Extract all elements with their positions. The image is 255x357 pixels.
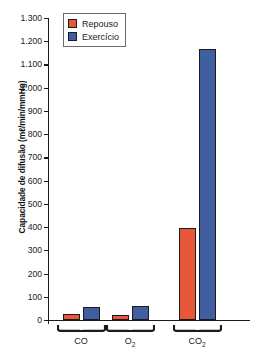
y-tick-mark	[44, 250, 48, 251]
y-tick-mark	[44, 88, 48, 89]
group-brace	[173, 325, 222, 332]
bar-chart-figure: Capacidade de difusão (mℓ/min/mmHg) 0100…	[0, 0, 255, 357]
y-tick-label: 1.200	[20, 37, 42, 46]
y-tick-label: 1.300	[20, 14, 42, 23]
y-tick-mark	[44, 64, 48, 65]
legend-swatch	[68, 19, 77, 28]
y-tick-label: 200	[28, 269, 42, 278]
y-tick-label: 900	[28, 107, 42, 116]
y-tick-label: 1.100	[20, 60, 42, 69]
y-axis-line	[48, 18, 49, 324]
y-tick-label: 700	[28, 153, 42, 162]
group-brace	[57, 325, 106, 332]
group-brace	[106, 325, 155, 332]
y-tick-mark	[44, 134, 48, 135]
x-axis-group-label-o2: O2	[100, 336, 160, 348]
y-tick-mark	[44, 111, 48, 112]
y-tick-label: 1.000	[20, 83, 42, 92]
x-axis-line	[48, 320, 250, 321]
chart-legend: RepousoExercício	[63, 13, 126, 47]
y-tick-label: 800	[28, 130, 42, 139]
y-tick-mark	[44, 18, 48, 19]
y-tick-label: 100	[28, 292, 42, 301]
plot-area: 01002003004005006007008009001.0001.1001.…	[48, 14, 250, 324]
y-tick-label: 600	[28, 176, 42, 185]
legend-label: Exercício	[82, 32, 119, 42]
legend-label: Repouso	[82, 19, 118, 29]
bar-co-repouso	[63, 314, 80, 320]
bar-o2-exerccio	[132, 306, 149, 320]
bar-co-exerccio	[83, 307, 100, 320]
y-tick-mark	[44, 181, 48, 182]
y-tick-mark	[44, 274, 48, 275]
y-tick-label: 500	[28, 200, 42, 209]
y-tick-mark	[44, 320, 48, 321]
y-axis-label: Capacidade de difusão (mℓ/min/mmHg)	[17, 42, 27, 272]
y-tick-label: 400	[28, 223, 42, 232]
legend-swatch	[68, 32, 77, 41]
legend-item-exerccio: Exercício	[68, 30, 119, 43]
y-tick-mark	[44, 204, 48, 205]
y-tick-mark	[44, 297, 48, 298]
bar-co2-exerccio	[199, 49, 216, 320]
legend-item-repouso: Repouso	[68, 17, 119, 30]
bar-co2-repouso	[179, 228, 196, 320]
y-tick-mark	[44, 227, 48, 228]
y-tick-label: 0	[37, 316, 42, 325]
y-tick-mark	[44, 157, 48, 158]
bar-o2-repouso	[112, 315, 129, 320]
y-tick-label: 300	[28, 246, 42, 255]
x-axis-group-label-co2: CO2	[167, 336, 227, 348]
y-tick-mark	[44, 41, 48, 42]
